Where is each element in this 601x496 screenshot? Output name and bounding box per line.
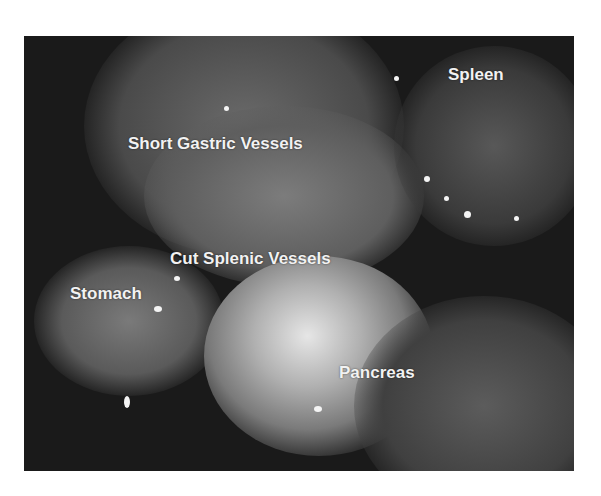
highlight <box>314 406 322 412</box>
label-cut-splenic-vessels: Cut Splenic Vessels <box>170 250 331 267</box>
highlight <box>464 211 471 218</box>
highlight <box>424 176 430 182</box>
stomach-region <box>34 246 224 396</box>
highlight <box>124 396 130 408</box>
label-stomach: Stomach <box>70 285 142 302</box>
label-short-gastric-vessels: Short Gastric Vessels <box>128 135 303 152</box>
highlight <box>154 306 162 312</box>
label-pancreas: Pancreas <box>339 364 415 381</box>
highlight <box>444 196 449 201</box>
highlight <box>514 216 519 221</box>
highlight <box>174 276 180 281</box>
label-spleen: Spleen <box>448 66 504 83</box>
highlight <box>394 76 399 81</box>
highlight <box>224 106 229 111</box>
